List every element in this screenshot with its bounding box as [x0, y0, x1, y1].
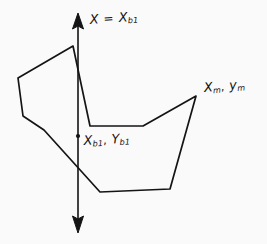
- axis-label-variable: X: [89, 11, 99, 27]
- base-point-x-variable: X: [83, 133, 93, 148]
- axis-label: X = Xb1: [89, 8, 139, 28]
- m-point-separator: ,: [220, 80, 225, 93]
- base-point-y-subscript: b1: [119, 138, 130, 148]
- figure-canvas: X = Xb1 Xb1, Yb1 Xm, ym: [0, 0, 267, 244]
- m-point-y-subscript: m: [237, 83, 246, 93]
- axis-label-operator: =: [103, 11, 114, 26]
- axis-arrowhead-bottom: [73, 216, 84, 233]
- base-point-dot: [76, 134, 80, 138]
- base-point-separator: ,: [103, 134, 107, 147]
- base-point-label: Xb1, Yb1: [83, 130, 130, 149]
- polygon-outline: [18, 46, 196, 192]
- m-point-label: Xm, ym: [203, 75, 246, 96]
- axis-label-subscript: b1: [128, 16, 139, 26]
- diagram-svg: [0, 0, 267, 244]
